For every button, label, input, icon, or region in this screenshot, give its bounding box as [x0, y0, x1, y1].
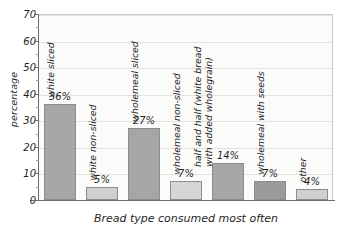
bar — [170, 181, 202, 200]
y-axis-minor-tick — [36, 160, 39, 161]
y-axis-tick — [34, 41, 39, 42]
bar — [212, 163, 244, 200]
y-axis-tick-label: 20 — [14, 141, 36, 152]
y-axis-minor-tick — [36, 107, 39, 108]
y-axis-tick — [34, 200, 39, 201]
y-axis-tick-label: 10 — [14, 168, 36, 179]
category-label: wholemeal sliced — [130, 42, 141, 122]
category-label: wholemeal non-sliced — [172, 74, 183, 175]
bar — [128, 128, 160, 200]
y-axis-tick-label: 0 — [14, 195, 36, 206]
bar — [254, 181, 286, 200]
bar-chart: 010203040506070 percentage 36%white slic… — [0, 0, 340, 233]
bar — [296, 189, 328, 200]
category-label: wholemeal with seeds — [256, 72, 267, 175]
y-axis-tick-label: 60 — [14, 35, 36, 46]
category-label: other — [298, 158, 309, 183]
gridline — [39, 15, 332, 16]
y-axis-tick — [34, 173, 39, 174]
category-label: half and half (white bread with added wh… — [193, 46, 214, 166]
gridline — [39, 95, 332, 96]
category-label: white sliced — [46, 43, 57, 98]
y-axis-tick — [34, 67, 39, 68]
gridline — [39, 121, 332, 122]
y-axis-minor-tick — [36, 27, 39, 28]
bar-value-label: 14% — [217, 150, 239, 161]
category-label: white non-sliced — [88, 104, 99, 180]
bar — [44, 104, 76, 200]
y-axis-tick — [34, 94, 39, 95]
x-axis-title: Bread type consumed most often — [39, 212, 333, 225]
y-axis-minor-tick — [36, 134, 39, 135]
y-axis-minor-tick — [36, 80, 39, 81]
y-axis-tick-label: 70 — [14, 9, 36, 20]
x-axis-line — [30, 200, 335, 201]
y-axis-minor-tick — [36, 54, 39, 55]
y-axis-title: percentage — [8, 65, 19, 135]
y-axis-minor-tick — [36, 187, 39, 188]
y-axis-tick — [34, 120, 39, 121]
gridline — [39, 42, 332, 43]
gridline — [39, 68, 332, 69]
y-axis-tick — [34, 14, 39, 15]
bar — [86, 187, 118, 200]
gridline — [39, 148, 332, 149]
y-axis-tick — [34, 147, 39, 148]
